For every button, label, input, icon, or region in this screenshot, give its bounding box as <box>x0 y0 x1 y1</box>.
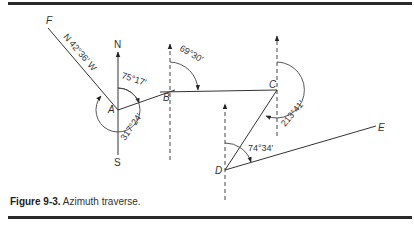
angle-a-75-label: 75°17′ <box>120 70 147 87</box>
point-b-label: B <box>163 92 170 103</box>
bottom-rule <box>8 216 412 219</box>
figure-caption-text: Azimuth traverse. <box>63 196 141 207</box>
arc-b-69 <box>170 62 198 90</box>
south-label: S <box>114 157 121 168</box>
point-f-label: F <box>46 15 53 26</box>
figure-caption: Figure 9-3. Azimuth traverse. <box>10 196 141 207</box>
angle-b-69-label: 69°30′ <box>178 43 205 64</box>
north-label: N <box>114 39 121 50</box>
angle-d-74-label: 74°34′ <box>248 143 274 153</box>
meridian-a: N S <box>114 39 121 168</box>
azimuth-traverse-diagram: N S F A B C D E N 42°36′ W 75°17′ 317°24… <box>0 0 414 226</box>
point-d-label: D <box>215 165 222 176</box>
point-a-label: A <box>107 104 115 115</box>
line-bc <box>160 90 277 92</box>
point-e-label: E <box>378 122 385 133</box>
line-af <box>48 28 118 110</box>
figure-number: Figure 9-3. <box>10 196 61 207</box>
angle-a-317-label: 317°24′ <box>118 111 144 142</box>
bearing-af-label: N 42°36′ W <box>61 32 98 73</box>
angle-c-213-label: 213°41′ <box>279 98 306 128</box>
point-c-label: C <box>269 79 277 90</box>
line-cd <box>225 90 277 170</box>
